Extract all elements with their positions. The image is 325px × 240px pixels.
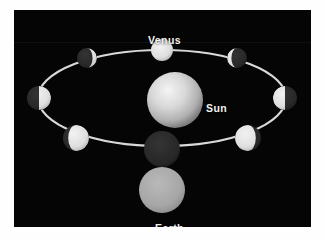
venus-crescent-lower-right <box>235 125 261 151</box>
earth <box>139 167 185 213</box>
venus-half-right <box>273 86 297 110</box>
night-sky-panel: Venus Sun Earth <box>14 10 311 227</box>
venus-crescent-lower-left <box>63 125 89 151</box>
phases-of-venus-figure: Venus Sun Earth <box>0 0 325 240</box>
venus-new-bottom-dark-side <box>144 131 180 167</box>
venus-gibbous-upper-left <box>77 48 97 68</box>
sun-label: Sun <box>206 102 227 114</box>
venus-label: Venus <box>148 34 181 46</box>
sun <box>147 72 203 128</box>
venus-new-bottom <box>144 131 180 167</box>
venus-gibbous-upper-right <box>227 48 247 68</box>
earth-label: Earth <box>155 222 184 227</box>
venus-half-left <box>27 86 51 110</box>
